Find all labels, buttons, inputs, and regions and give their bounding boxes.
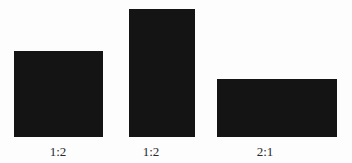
rectangle-2 (129, 9, 195, 137)
rectangle-3 (217, 79, 337, 137)
rectangle-2-label: 1:2 (121, 145, 181, 159)
rectangle-3-label: 2:1 (235, 145, 295, 159)
aspect-ratio-figure: 1:2 1:2 2:1 (0, 0, 352, 163)
rectangle-1-label: 1:2 (28, 145, 88, 159)
rectangle-1 (14, 51, 103, 137)
